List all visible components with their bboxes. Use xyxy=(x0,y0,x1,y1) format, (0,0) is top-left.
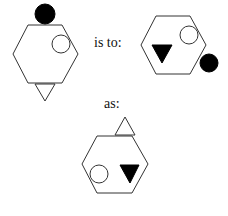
open-circle-b xyxy=(180,26,198,44)
open-triangle-a xyxy=(35,84,55,101)
connector-is-to: is to: xyxy=(94,35,122,50)
figure-b xyxy=(141,16,218,74)
filled-circle-a xyxy=(35,4,55,24)
connector-as: as: xyxy=(104,96,120,111)
hexagon-b xyxy=(141,16,206,74)
figure-c xyxy=(82,117,148,193)
filled-triangle-c xyxy=(120,165,139,183)
open-circle-a xyxy=(52,35,70,53)
open-circle-c xyxy=(90,165,108,183)
hexagon-a xyxy=(13,25,78,83)
analogy-diagram: is to: as: xyxy=(0,0,228,216)
filled-triangle-b xyxy=(152,45,172,63)
figure-a xyxy=(13,4,78,101)
open-triangle-c xyxy=(115,117,135,135)
filled-circle-b xyxy=(200,54,218,72)
